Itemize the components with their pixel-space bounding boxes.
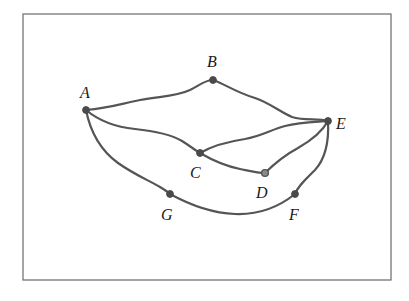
- node-a: [83, 107, 90, 114]
- node-f: [292, 191, 299, 198]
- node-c: [197, 150, 204, 157]
- node-label-f: F: [288, 206, 299, 223]
- node-label-c: C: [190, 164, 201, 181]
- edge-c-e: [200, 121, 328, 153]
- node-label-g: G: [161, 206, 173, 223]
- node-e: [325, 118, 332, 125]
- edge-a-c: [86, 110, 200, 153]
- node-g: [167, 191, 174, 198]
- node-d: [262, 170, 269, 177]
- node-label-d: D: [255, 184, 268, 201]
- edge-c-d: [200, 153, 265, 173]
- edge-a-g: [86, 110, 170, 194]
- node-b: [210, 77, 217, 84]
- edge-a-b: [86, 80, 213, 110]
- nodes-group: [83, 77, 332, 198]
- graph-diagram: ABCDEFG: [0, 0, 409, 301]
- edge-b-e: [213, 80, 328, 121]
- node-label-e: E: [335, 115, 346, 132]
- edge-g-f: [170, 194, 295, 214]
- node-label-b: B: [207, 53, 217, 70]
- node-label-a: A: [79, 84, 90, 101]
- edge-e-f: [295, 121, 328, 194]
